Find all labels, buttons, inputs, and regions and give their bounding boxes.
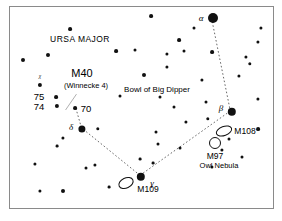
field-star <box>155 131 158 134</box>
m97-label: M97 <box>207 152 224 161</box>
beta-star-label: β <box>219 104 223 113</box>
m40-alt-label: (Winnecke 4) <box>64 82 108 90</box>
field-star <box>183 50 186 53</box>
field-star <box>149 14 153 18</box>
field-star <box>21 58 25 62</box>
field-star <box>56 145 59 148</box>
field-star <box>159 96 162 99</box>
field-star <box>139 158 142 161</box>
star-74-label: 74 <box>34 102 45 112</box>
m109-label: M109 <box>137 185 158 194</box>
field-star <box>142 73 146 77</box>
field-star <box>134 49 137 52</box>
asterism-line-gamma-delta <box>81 128 140 176</box>
gamma-star-label: γ <box>150 179 154 188</box>
field-star <box>61 189 65 193</box>
field-star <box>157 143 160 146</box>
region-label: Bowl of Big Dipper <box>124 86 190 94</box>
labeled-star-star-75 <box>54 95 58 99</box>
field-star <box>152 162 155 165</box>
named-star-alpha-dubhe <box>208 13 218 23</box>
constellation-label: URSA MAJOR <box>50 35 110 44</box>
alpha-star-label: α <box>199 14 204 23</box>
field-star <box>108 186 111 189</box>
m97-alt-label: Owl Nebula <box>200 162 239 170</box>
field-star <box>119 95 122 98</box>
field-star <box>179 147 182 150</box>
star-70-label: 70 <box>81 104 92 114</box>
sky-field-frame: URSA MAJOR Bowl of Big Dipper M40 (Winne… <box>9 6 274 209</box>
field-star <box>256 127 260 131</box>
m40-label: M40 <box>71 68 92 79</box>
field-star <box>85 167 88 170</box>
field-star <box>177 38 181 42</box>
delta-star-label: δ <box>69 123 73 132</box>
field-star <box>193 27 196 30</box>
field-star <box>173 106 176 109</box>
star-chart: URSA MAJOR Bowl of Big Dipper M40 (Winne… <box>0 0 282 221</box>
field-star <box>228 138 231 141</box>
labeled-star-star-70 <box>73 106 77 110</box>
field-star <box>241 156 244 159</box>
asterism-line-alpha-beta <box>211 18 230 111</box>
field-star <box>68 27 72 31</box>
field-star <box>46 53 50 57</box>
field-star <box>114 49 118 53</box>
m97-symbol <box>209 137 221 149</box>
field-star <box>210 50 214 54</box>
star-chi-label: χ <box>39 74 41 80</box>
field-star <box>205 101 208 104</box>
m108-label: M108 <box>234 127 255 136</box>
